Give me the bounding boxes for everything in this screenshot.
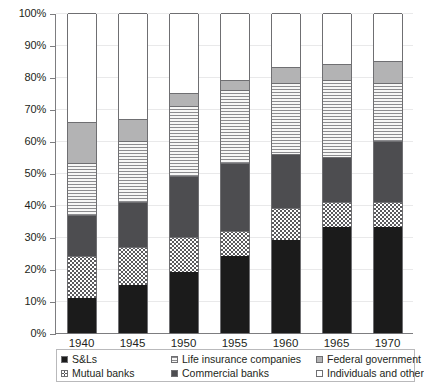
segment-individuals-1955 (221, 13, 249, 80)
bar-1950 (169, 14, 199, 334)
y-tick-label: 30% (0, 231, 46, 243)
segment-federal-1940 (68, 122, 96, 164)
segment-individuals-1965 (323, 13, 351, 64)
y-tick-label: 10% (0, 295, 46, 307)
legend-item: Federal government (316, 354, 424, 365)
chart-legend: S&LsLife insurance companiesFederal gove… (56, 349, 415, 382)
segment-divider (323, 13, 351, 14)
segment-divider (374, 202, 402, 203)
legend-label: Individuals and other (327, 368, 424, 379)
segment-individuals-1950 (170, 13, 198, 93)
bar-1965 (322, 14, 352, 334)
segment-federal-1950 (170, 93, 198, 106)
segment-sl-1960 (272, 240, 300, 333)
segment-commercial-1970 (374, 141, 402, 202)
segment-mutual-1955 (221, 231, 249, 257)
segment-life-1945 (119, 141, 147, 202)
legend-swatch-icon (171, 356, 178, 363)
segment-divider (119, 119, 147, 120)
plot-area (56, 14, 413, 334)
segment-sl-1945 (119, 285, 147, 333)
segment-federal-1970 (374, 61, 402, 83)
y-tick-label: 100% (0, 7, 46, 19)
segment-divider (119, 141, 147, 142)
segment-divider (221, 80, 249, 81)
segment-life-1970 (374, 83, 402, 141)
segment-commercial-1960 (272, 154, 300, 208)
y-tick-label: 60% (0, 135, 46, 147)
segment-life-1955 (221, 90, 249, 164)
legend-item: Commercial banks (171, 368, 316, 379)
segment-individuals-1940 (68, 13, 96, 122)
legend-label: Mutual banks (72, 368, 134, 379)
segment-sl-1950 (170, 272, 198, 333)
segment-divider (272, 208, 300, 209)
segment-divider (272, 154, 300, 155)
y-tick-label: 70% (0, 103, 46, 115)
segment-commercial-1955 (221, 163, 249, 230)
bar-1970 (373, 14, 403, 334)
segment-individuals-1970 (374, 13, 402, 61)
segment-divider (68, 215, 96, 216)
segment-divider (170, 176, 198, 177)
segment-divider (374, 13, 402, 14)
segment-federal-1965 (323, 64, 351, 80)
segment-divider (374, 141, 402, 142)
segment-divider (221, 13, 249, 14)
segment-federal-1955 (221, 80, 249, 90)
legend-label: Life insurance companies (182, 354, 301, 365)
segment-divider (272, 67, 300, 68)
segment-divider (221, 90, 249, 91)
legend-swatch-icon (171, 370, 178, 377)
legend-swatch-icon (316, 370, 323, 377)
legend-label: Commercial banks (182, 368, 269, 379)
segment-federal-1960 (272, 67, 300, 83)
segment-mutual-1960 (272, 208, 300, 240)
segment-divider (221, 231, 249, 232)
legend-swatch-icon (316, 356, 323, 363)
y-tick-label: 40% (0, 199, 46, 211)
segment-divider (68, 163, 96, 164)
bar-1960 (271, 14, 301, 334)
segment-divider (323, 80, 351, 81)
y-tick-label: 80% (0, 71, 46, 83)
legend-label: S&Ls (72, 354, 97, 365)
y-tick-label: 90% (0, 39, 46, 51)
legend-swatch-icon (61, 356, 68, 363)
segment-divider (374, 83, 402, 84)
segment-divider (272, 13, 300, 14)
segment-divider (323, 64, 351, 65)
segment-divider (170, 13, 198, 14)
segment-life-1950 (170, 106, 198, 176)
segment-individuals-1945 (119, 13, 147, 119)
segment-divider (68, 13, 96, 14)
segment-mutual-1940 (68, 256, 96, 298)
segment-divider (68, 256, 96, 257)
legend-label: Federal government (327, 354, 421, 365)
segment-divider (170, 237, 198, 238)
legend-item: S&Ls (61, 354, 171, 365)
bar-1955 (220, 14, 250, 334)
segment-divider (68, 122, 96, 123)
segment-sl-1970 (374, 227, 402, 333)
segment-life-1940 (68, 163, 96, 214)
segment-divider (323, 157, 351, 158)
legend-item: Individuals and other (316, 368, 424, 379)
segment-mutual-1945 (119, 247, 147, 285)
segment-divider (170, 93, 198, 94)
segment-sl-1955 (221, 256, 249, 333)
segment-commercial-1945 (119, 202, 147, 247)
segment-mutual-1965 (323, 202, 351, 228)
segment-life-1960 (272, 83, 300, 153)
segment-divider (170, 106, 198, 107)
segment-sl-1940 (68, 298, 96, 333)
segment-commercial-1950 (170, 176, 198, 237)
x-tick-label-1970: 1970 (358, 337, 418, 349)
legend-item: Mutual banks (61, 368, 171, 379)
segment-life-1965 (323, 80, 351, 157)
y-tick-label: 20% (0, 263, 46, 275)
segment-divider (323, 202, 351, 203)
segment-mutual-1970 (374, 202, 402, 228)
legend-item: Life insurance companies (171, 354, 316, 365)
